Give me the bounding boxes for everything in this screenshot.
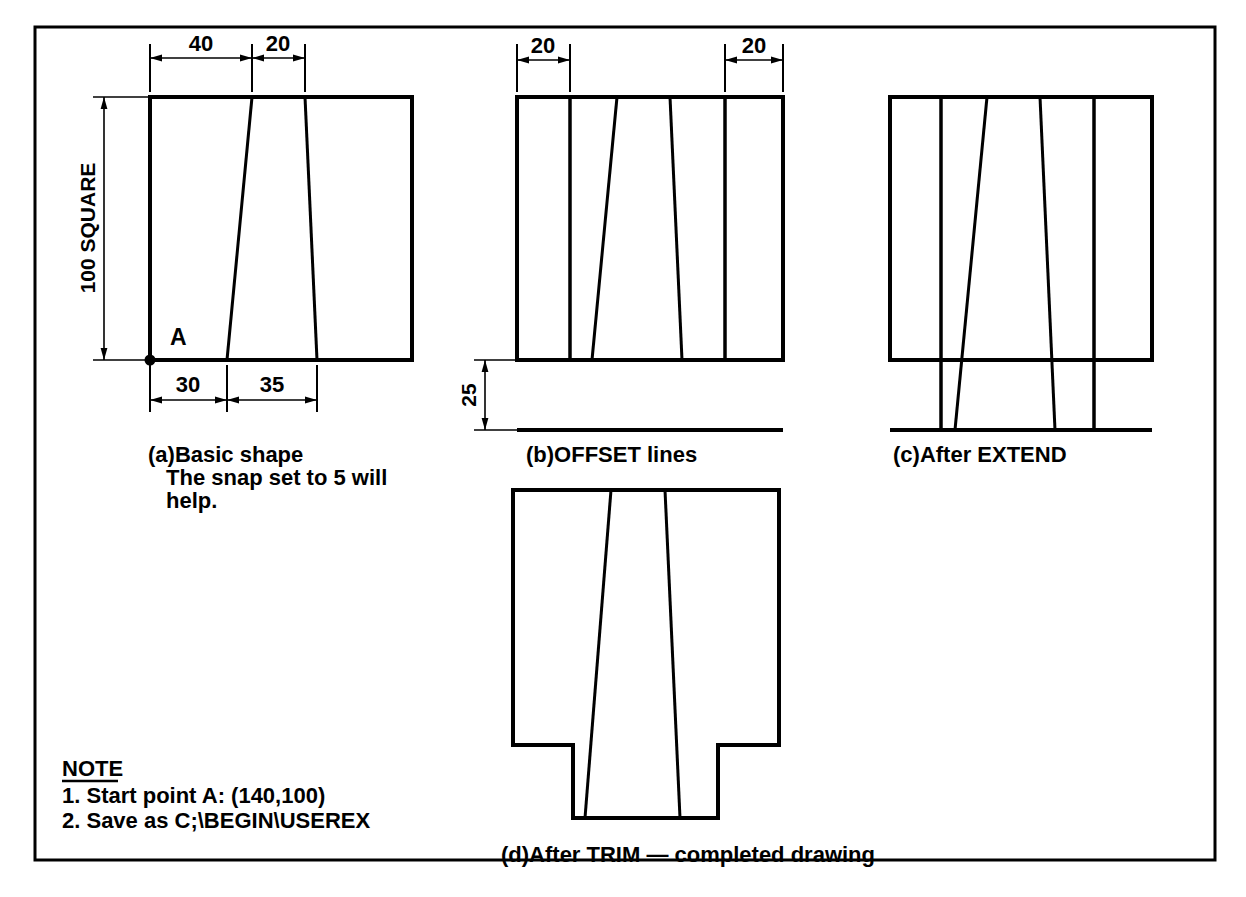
caption-d: (d)After TRIM — completed drawing — [501, 842, 875, 867]
arrowhead-a-30-left — [150, 397, 162, 404]
arrowhead-a-30-right — [215, 397, 227, 404]
dim-label-a-30: 30 — [176, 372, 200, 397]
caption-c: (c)After EXTEND — [893, 442, 1067, 467]
caption-a-line-2: The snap set to 5 will — [166, 465, 387, 490]
dim-label-a-35: 35 — [260, 372, 284, 397]
shape-d-slant-left — [585, 490, 611, 818]
arrowhead-a-40-right — [240, 55, 252, 62]
start-point-marker — [145, 355, 156, 366]
arrowhead-a-35-left — [227, 397, 239, 404]
arrowhead-a-height-top — [101, 97, 108, 109]
arrowhead-b-25-bottom — [482, 418, 489, 430]
panel-d: (d)After TRIM — completed drawing — [501, 490, 875, 867]
start-point-label: A — [170, 324, 187, 350]
technical-drawing-canvas: 40 20 100 SQUARE A — [0, 0, 1246, 897]
dim-label-b-20-right: 20 — [742, 33, 766, 58]
dim-label-a-height: 100 SQUARE — [76, 163, 99, 294]
caption-b: (b)OFFSET lines — [526, 442, 697, 467]
drawing-page: 40 20 100 SQUARE A — [0, 0, 1246, 897]
dim-label-a-20: 20 — [266, 31, 290, 56]
shape-b-square — [517, 97, 783, 360]
note-item-1: 1. Start point A: (140,100) — [62, 783, 325, 808]
arrowhead-a-40-left — [150, 55, 162, 62]
arrowhead-b-20-right-b — [771, 57, 783, 64]
arrowhead-a-35-right — [305, 397, 317, 404]
arrowhead-a-height-bottom — [101, 348, 108, 360]
panel-a: 40 20 100 SQUARE A — [76, 31, 412, 513]
shape-d-slant-right — [665, 490, 680, 818]
caption-a-line-3: help. — [166, 488, 217, 513]
dim-label-b-25: 25 — [457, 383, 480, 407]
shape-a-slant-right — [305, 97, 317, 360]
shape-b-slant-left — [592, 97, 617, 360]
shape-a-square — [150, 97, 412, 360]
arrowhead-b-25-top — [482, 360, 489, 372]
arrowhead-a-20-right — [293, 55, 305, 62]
dim-label-a-40: 40 — [189, 31, 213, 56]
arrowhead-b-20-left-b — [558, 57, 570, 64]
arrowhead-b-20-right-a — [725, 57, 737, 64]
shape-b-slant-right — [670, 97, 682, 360]
shape-c-extended-slant-right — [1040, 97, 1055, 430]
arrowhead-a-20-left — [252, 55, 264, 62]
panel-c: (c)After EXTEND — [890, 97, 1152, 467]
panel-b: 20 20 25 (b)OF — [457, 33, 783, 467]
note-heading: NOTE — [62, 756, 123, 781]
dim-label-b-20-left: 20 — [531, 33, 555, 58]
shape-a-slant-left — [227, 97, 252, 360]
caption-a-line-1: (a)Basic shape — [148, 442, 303, 467]
note-item-2: 2. Save as C;\BEGIN\USEREX — [62, 808, 370, 833]
shape-c-square — [890, 97, 1152, 360]
arrowhead-b-20-left-a — [517, 57, 529, 64]
note-block: NOTE 1. Start point A: (140,100) 2. Save… — [62, 756, 370, 833]
shape-c-extended-slant-left — [955, 97, 987, 430]
shape-d-outline — [513, 490, 779, 818]
